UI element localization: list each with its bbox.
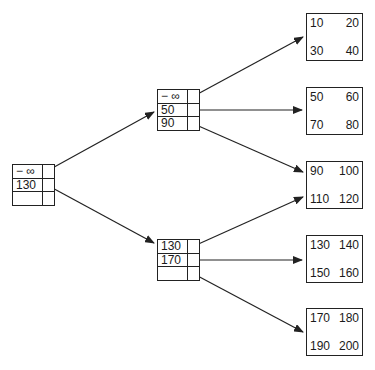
edge-upper-to-leaf3	[194, 124, 303, 172]
internal-row: 90	[158, 117, 199, 131]
pointer-cell	[43, 165, 54, 178]
leaf-value: 20	[346, 16, 359, 30]
internal-key: 50	[158, 104, 188, 117]
edge-upper-to-leaf1	[194, 37, 303, 96]
root-row-2: 130	[13, 179, 54, 193]
internal-row: 50	[158, 104, 199, 118]
leaf-value: 10	[310, 16, 323, 30]
leaf-value: 160	[339, 266, 359, 280]
leaf-value: 90	[310, 164, 323, 178]
internal-row: − ∞	[158, 90, 199, 104]
pointer-cell	[188, 90, 199, 103]
pointer-cell	[188, 254, 199, 267]
internal-key: 170	[158, 254, 188, 267]
pointer-cell	[188, 104, 199, 117]
edge-root-to-lower	[47, 185, 154, 243]
internal-key: 90	[158, 117, 188, 131]
edge-lower-to-leaf3	[194, 197, 303, 246]
leaf-value: 100	[339, 164, 359, 178]
leaf-value: 80	[346, 118, 359, 132]
leaf-node-2: 50 60 70 80	[306, 87, 363, 135]
internal-row: 170	[158, 254, 199, 268]
leaf-value: 190	[310, 339, 330, 353]
leaf-value: 130	[310, 238, 330, 252]
root-key-3	[13, 192, 43, 206]
leaf-node-5: 170 180 190 200	[306, 308, 363, 356]
leaf-value: 120	[339, 192, 359, 206]
internal-node-upper: − ∞ 50 90	[157, 89, 200, 131]
root-key-1: − ∞	[13, 165, 43, 178]
leaf-value: 110	[310, 192, 329, 206]
leaf-value: 50	[310, 90, 323, 104]
leaf-value: 70	[310, 118, 323, 132]
leaf-value: 140	[339, 238, 359, 252]
root-row-1: − ∞	[13, 165, 54, 179]
pointer-cell	[43, 179, 54, 192]
internal-row	[158, 267, 199, 281]
pointer-cell	[188, 267, 199, 281]
edge-lower-to-leaf5	[194, 274, 303, 332]
leaf-value: 40	[346, 44, 359, 58]
leaf-value: 60	[346, 90, 359, 104]
leaf-value: 30	[310, 44, 323, 58]
leaf-value: 200	[339, 339, 359, 353]
edge-root-to-upper	[47, 112, 154, 171]
pointer-cell	[188, 240, 199, 253]
leaf-value: 150	[310, 266, 330, 280]
internal-key: 130	[158, 240, 188, 253]
leaf-node-1: 10 20 30 40	[306, 13, 363, 61]
internal-key: − ∞	[158, 90, 188, 103]
internal-key	[158, 267, 188, 281]
leaf-value: 170	[310, 311, 330, 325]
pointer-cell	[188, 117, 199, 131]
internal-row: 130	[158, 240, 199, 254]
leaf-node-3: 90 100 110 120	[306, 161, 363, 209]
leaf-value: 180	[339, 311, 359, 325]
root-node: − ∞ 130	[12, 164, 55, 206]
internal-node-lower: 130 170	[157, 239, 200, 281]
root-key-2: 130	[13, 179, 43, 192]
pointer-cell	[43, 192, 54, 206]
root-row-3	[13, 192, 54, 206]
leaf-node-4: 130 140 150 160	[306, 235, 363, 283]
